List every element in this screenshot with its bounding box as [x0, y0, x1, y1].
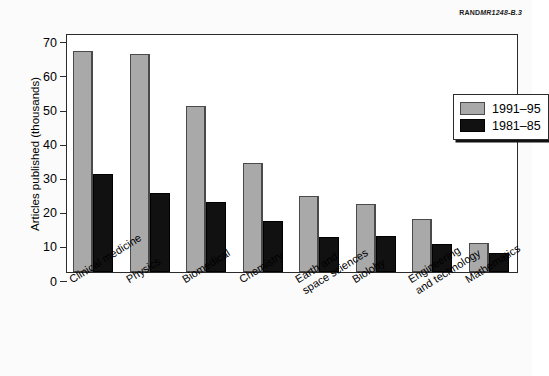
- source-credit-prefix: RAND: [459, 9, 480, 16]
- y-axis-tick-mark: [60, 179, 67, 180]
- bar-group: [412, 35, 452, 272]
- y-axis-tick-mark: [60, 145, 67, 146]
- y-axis-tick-label: 70: [43, 36, 57, 49]
- y-axis-tick-label: 50: [43, 104, 57, 117]
- legend-item: 1981–85: [460, 117, 541, 134]
- y-axis-tick-mark: [60, 111, 67, 112]
- bar-group: [73, 35, 113, 272]
- legend-item: 1991–95: [460, 100, 541, 117]
- y-axis-tick-mark: [60, 76, 67, 77]
- y-axis-tick-mark: [60, 42, 67, 43]
- bar-group: [356, 35, 396, 272]
- y-axis-tick-label: 0: [50, 275, 57, 288]
- bar: [243, 163, 263, 272]
- chart-legend: 1991–951981–85: [453, 94, 549, 140]
- legend-label: 1991–95: [492, 102, 541, 116]
- y-axis-tick-label: 20: [43, 207, 57, 220]
- y-axis-tick-mark: [60, 213, 67, 214]
- y-axis-tick-label: 30: [43, 173, 57, 186]
- bar: [73, 51, 93, 272]
- y-axis-tick-label: 10: [43, 241, 57, 254]
- legend-swatch: [460, 102, 485, 115]
- source-credit: RANDMR1248-B.3: [459, 9, 522, 16]
- bar: [186, 106, 206, 272]
- source-credit-code: MR1248-B.3: [480, 9, 522, 16]
- x-axis-labels: Clinical medicinePhysicsBiomedicalChemis…: [66, 275, 518, 375]
- y-axis-tick-label: 60: [43, 70, 57, 83]
- legend-label: 1981–85: [492, 119, 541, 133]
- y-axis-tick-label: 40: [43, 138, 57, 151]
- y-axis-title: Articles published (thousands): [29, 29, 41, 279]
- bar-group: [469, 35, 509, 272]
- bar-group: [243, 35, 283, 272]
- bar-group: [299, 35, 339, 272]
- legend-swatch: [460, 119, 485, 132]
- y-axis-tick-mark: [60, 247, 67, 248]
- bar-group: [186, 35, 226, 272]
